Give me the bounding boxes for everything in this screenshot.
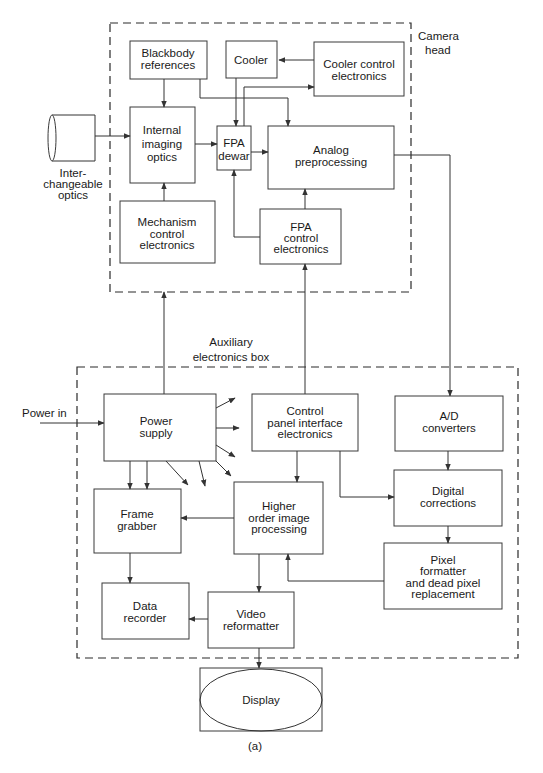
block-label-text: Data xyxy=(133,600,158,612)
block-ad-converters: A/D converters xyxy=(395,396,503,451)
auxiliary-label-1: Auxiliary xyxy=(209,336,253,348)
block-video-reformatter: Video reformatter xyxy=(208,592,294,648)
block-label-text: optics xyxy=(147,151,177,163)
block-label-text: reformatter xyxy=(223,620,279,632)
block-internal-imaging-optics: Internal imaging optics xyxy=(130,107,195,183)
block-label-text: Analog xyxy=(313,144,349,156)
block-cooler: Cooler xyxy=(226,41,277,78)
block-label-text: FPA xyxy=(223,137,245,149)
block-power-supply: Power supply xyxy=(104,394,216,461)
block-pixel-formatter-dead-pixel-replacement: Pixel formatter and dead pixel replaceme… xyxy=(384,543,502,609)
block-analog-preprocessing: Analog preprocessing xyxy=(268,126,394,189)
block-mechanism-control-electronics: Mechanism control electronics xyxy=(120,201,215,263)
block-label-text: formatter xyxy=(420,565,466,577)
block-blackbody-references: Blackbody references xyxy=(130,41,207,79)
block-label-text: Power xyxy=(140,415,173,427)
block-data-recorder: Data recorder xyxy=(102,583,189,639)
block-control-panel-interface-electronics: Control panel interface electronics xyxy=(252,394,358,451)
block-label-text: electronics xyxy=(332,70,387,82)
camera-head-label-1: Camera xyxy=(418,30,460,42)
block-label-text: grabber xyxy=(117,520,157,532)
display-unit: Display xyxy=(200,668,322,731)
camera-head-label-2: head xyxy=(425,44,451,56)
block-label-text: electronics xyxy=(278,428,333,440)
block-label-text: imaging xyxy=(142,138,182,150)
block-digital-corrections: Digital corrections xyxy=(394,470,502,526)
block-label-text: electronics xyxy=(140,239,195,251)
block-label-text: electronics xyxy=(274,243,329,255)
block-label-text: corrections xyxy=(420,497,476,509)
auxiliary-label-2: electronics box xyxy=(193,351,270,363)
block-label-text: Internal xyxy=(143,124,181,136)
figure-caption: (a) xyxy=(248,740,262,752)
block-label-text: references xyxy=(141,59,196,71)
power-in-input: Power in xyxy=(22,407,104,423)
block-fpa-dewar: FPA dewar xyxy=(217,126,251,170)
block-label-text: preprocessing xyxy=(295,156,367,168)
block-label-text: dewar xyxy=(218,150,249,162)
block-label-text: Display xyxy=(242,694,280,706)
block-label-text: Blackbody xyxy=(141,47,194,59)
block-label-text: Video xyxy=(236,608,265,620)
block-label-text: processing xyxy=(251,523,307,535)
block-label-text: supply xyxy=(139,427,172,439)
block-label-text: replacement xyxy=(411,588,475,600)
block-label-text: Mechanism xyxy=(138,216,197,228)
block-label-text: A/D xyxy=(439,410,458,422)
block-label-text: Cooler xyxy=(234,54,268,66)
infrared-camera-block-diagram: Camera head Auxiliary electronics box In… xyxy=(0,0,543,773)
block-label-text: recorder xyxy=(124,612,167,624)
block-frame-grabber: Frame grabber xyxy=(94,489,181,553)
block-label-text: Power in xyxy=(22,407,67,419)
block-label-text: Higher xyxy=(262,500,296,512)
interchangeable-optics: Inter- changeable optics xyxy=(43,115,102,201)
block-cooler-control-electronics: Cooler control electronics xyxy=(314,42,404,96)
block-label-text: converters xyxy=(422,422,476,434)
block-fpa-control-electronics: FPA control electronics xyxy=(260,209,341,264)
block-label-text: Control xyxy=(286,405,323,417)
block-label-text: Cooler control xyxy=(323,58,395,70)
block-higher-order-image-processing: Higher order image processing xyxy=(234,482,323,554)
block-label-text: Frame xyxy=(120,508,153,520)
block-label-text: optics xyxy=(58,189,88,201)
block-label-text: Digital xyxy=(432,485,464,497)
